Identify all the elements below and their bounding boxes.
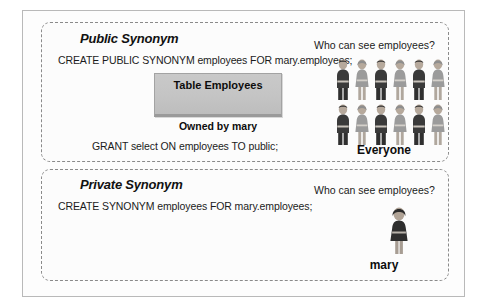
sql-create-synonym: CREATE SYNONYM employees FOR mary.employ… [58, 200, 312, 212]
person-female-icon [430, 104, 446, 146]
people-crowd-row-1 [335, 59, 446, 101]
panel-title-public: Public Synonym [80, 31, 178, 46]
person-male-icon [335, 59, 351, 101]
question-who-can-see-private: Who can see employees? [314, 184, 435, 196]
sql-create-public-synonym: CREATE PUBLIC SYNONYM employees FOR mary… [58, 54, 352, 66]
question-who-can-see-public: Who can see employees? [314, 39, 435, 51]
person-male-icon [373, 104, 389, 146]
person-female-icon [392, 59, 408, 101]
panel-private-synonym: Private Synonym CREATE SYNONYM employees… [41, 169, 449, 281]
person-female-icon [430, 59, 446, 101]
person-female-icon [392, 104, 408, 146]
table-employees-box: Table Employees [154, 73, 282, 117]
person-male-icon [335, 104, 351, 146]
table-employees-label: Table Employees [155, 79, 281, 91]
person-male-icon [373, 59, 389, 101]
diagram-frame: Public Synonym CREATE PUBLIC SYNONYM emp… [22, 10, 465, 297]
person-mary-icon [387, 206, 411, 256]
person-female-icon [354, 104, 370, 146]
caption-mary: mary [314, 258, 454, 272]
table-owner-label: Owned by mary [154, 120, 282, 132]
panel-public-synonym: Public Synonym CREATE PUBLIC SYNONYM emp… [41, 22, 449, 162]
people-crowd-row-2 [335, 104, 446, 146]
panel-title-private: Private Synonym [80, 177, 183, 192]
person-male-icon [411, 59, 427, 101]
person-male-icon [411, 104, 427, 146]
person-female-icon [354, 59, 370, 101]
caption-everyone: Everyone [314, 143, 454, 157]
sql-grant-select: GRANT select ON employees TO public; [92, 140, 278, 152]
